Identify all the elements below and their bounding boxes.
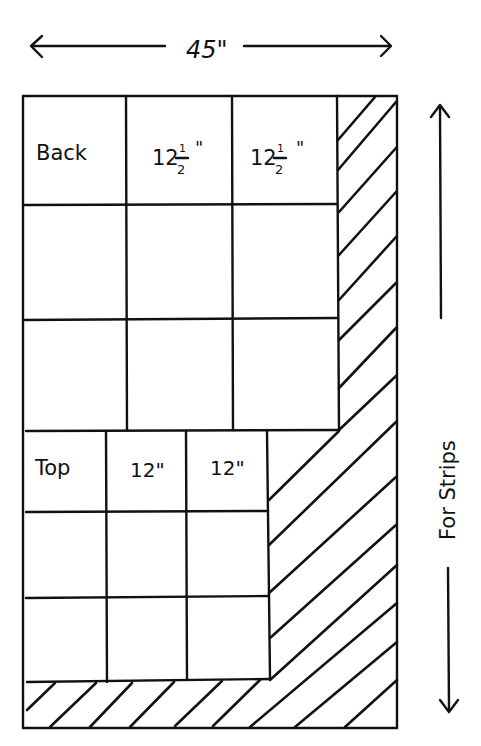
grid-line [23, 318, 337, 320]
width-label: 45" [186, 36, 228, 64]
grid-line [106, 431, 107, 682]
grid-line [27, 679, 270, 682]
strips-hatched-region [27, 97, 397, 727]
hatch-line [27, 683, 55, 710]
grid-line [232, 96, 233, 430]
hatch-line [338, 102, 396, 170]
fraction-numerator: 1 [277, 142, 284, 155]
strips-label: For Strips [436, 440, 460, 540]
fraction-denominator: 2 [275, 162, 283, 177]
hatch-line [295, 642, 397, 727]
back-column-label-2: 12 1 2 " [250, 137, 304, 177]
grid-line [23, 204, 337, 205]
hatch-line [213, 680, 260, 726]
hatch-line [50, 683, 96, 727]
hatch-line [90, 683, 132, 727]
grid-line [26, 511, 268, 512]
grid-line [186, 431, 187, 680]
fabric-cutting-diagram: 45" Back 12 1 2 " 12 1 2 " Top 12" 12" [0, 0, 481, 746]
hatch-line [269, 477, 396, 593]
top-label: Top [34, 456, 70, 480]
grid-line [26, 430, 339, 431]
grid-line [26, 596, 269, 598]
hatch-line [250, 603, 397, 727]
dimension-whole: 12 [250, 146, 277, 170]
hatch-line [339, 328, 396, 388]
fabric-outline [23, 96, 397, 728]
fraction-numerator: 1 [179, 142, 186, 155]
strips-dimension-arrow: For Strips [431, 105, 460, 712]
back-column-label-1: 12 1 2 " [152, 137, 203, 177]
inch-mark: " [296, 137, 304, 158]
hatch-line [175, 681, 222, 726]
grid-line [337, 96, 339, 430]
width-dimension-arrow: 45" [31, 36, 391, 64]
top-column-label-1: 12" [130, 458, 165, 482]
inch-mark: " [195, 137, 203, 158]
grid-line [126, 96, 127, 430]
hatch-line [130, 682, 174, 727]
strips-arrow-top-line [440, 106, 441, 318]
back-label: Back [36, 141, 88, 165]
top-column-label-2: 12" [210, 456, 245, 480]
strips-arrow-bottom-line [448, 568, 449, 710]
grid-line [267, 431, 270, 678]
hatch-line [345, 680, 397, 727]
dimension-whole: 12 [152, 146, 179, 170]
hatch-line [269, 431, 339, 500]
fraction-denominator: 2 [177, 162, 185, 177]
